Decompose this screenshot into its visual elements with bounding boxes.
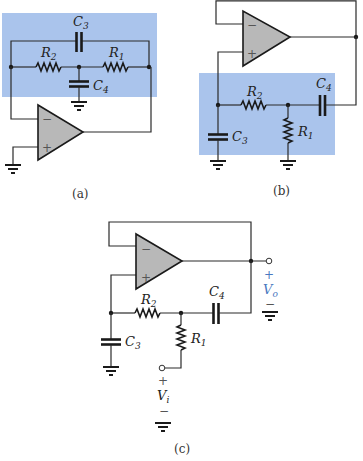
caption-b: (b): [273, 184, 290, 198]
resistor-r2-c: R2: [135, 292, 160, 317]
svg-text:C4: C4: [209, 284, 225, 301]
panel-a: C3 R2 R1 C4: [2, 13, 157, 201]
svg-text:+: +: [42, 141, 52, 155]
svg-text:C3: C3: [125, 334, 141, 351]
svg-text:−: −: [265, 297, 275, 311]
resistor-r1-c: R1: [165, 313, 207, 368]
svg-text:−: −: [247, 18, 257, 32]
svg-text:+: +: [141, 271, 151, 285]
circuit-figure: C3 R2 R1 C4: [0, 0, 363, 461]
capacitor-c4-c: C4: [209, 261, 251, 324]
svg-text:−: −: [159, 404, 169, 418]
svg-text:+: +: [264, 268, 274, 282]
ground-icon: [210, 161, 226, 169]
output-voltage-label: + Vo −: [263, 268, 278, 311]
ground-icon: [71, 102, 87, 110]
opamp-c: − +: [136, 234, 182, 289]
ground-icon: [103, 367, 119, 375]
svg-text:Vi: Vi: [157, 388, 169, 405]
input-voltage-label: + Vi −: [157, 374, 169, 418]
highlight-box-b: [199, 73, 335, 155]
svg-text:−: −: [141, 242, 151, 256]
panel-b: − + R2 C4 C3: [199, 1, 358, 198]
output-terminal: [266, 258, 272, 264]
svg-text:R2: R2: [140, 292, 157, 309]
capacitor-c3-c: C3: [101, 313, 141, 367]
input-terminal: [159, 365, 165, 371]
svg-text:+: +: [247, 47, 257, 61]
caption-a: (a): [72, 187, 89, 201]
opamp-b: − +: [243, 11, 290, 66]
svg-text:R1: R1: [190, 331, 207, 348]
ground-icon: [280, 161, 296, 169]
opamp-a: − +: [38, 105, 83, 160]
panel-c: − + + Vo − R2 C4: [101, 222, 278, 456]
ground-icon: [262, 312, 278, 320]
caption-c: (c): [174, 442, 190, 456]
svg-text:−: −: [42, 112, 52, 126]
ground-icon: [155, 423, 171, 431]
ground-icon: [5, 165, 21, 173]
svg-text:+: +: [158, 374, 168, 388]
